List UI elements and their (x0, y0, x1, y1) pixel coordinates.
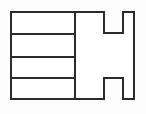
figure-canvas (0, 0, 146, 114)
outline-shape (11, 12, 134, 99)
line-diagram (0, 0, 146, 114)
